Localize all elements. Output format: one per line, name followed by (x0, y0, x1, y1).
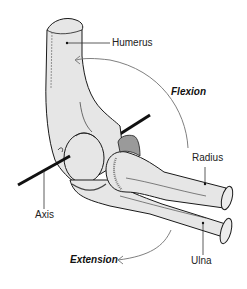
extension-arrow (118, 230, 171, 260)
ulna-dot (202, 222, 204, 224)
elbow-diagram: Humerus Flexion Radius Axis Ulna Extensi… (0, 0, 247, 289)
label-flexion: Flexion (171, 87, 206, 97)
label-radius: Radius (192, 153, 223, 163)
label-axis: Axis (35, 210, 54, 220)
axis-rod-back (120, 115, 150, 134)
radius-dot (204, 183, 206, 185)
label-humerus: Humerus (112, 38, 153, 48)
humerus-dot (66, 42, 68, 44)
label-ulna: Ulna (191, 256, 212, 266)
label-extension: Extension (70, 255, 118, 265)
trochlea (64, 133, 104, 183)
